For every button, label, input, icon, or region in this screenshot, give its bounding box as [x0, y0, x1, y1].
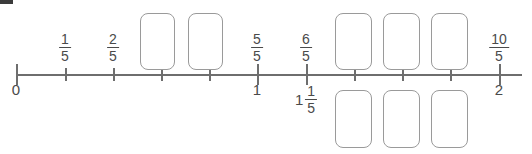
- label-six-fifths: 65: [300, 32, 312, 63]
- fraction-denominator: 5: [251, 48, 263, 63]
- label-one: 1: [253, 82, 261, 97]
- fraction-numerator: 1: [59, 32, 71, 47]
- fraction-numerator: 6: [300, 32, 312, 47]
- mixed-numerator: 1: [305, 84, 317, 99]
- mixed-denominator: 5: [305, 100, 317, 115]
- mixed-whole-part: 1: [295, 92, 303, 107]
- fraction-numerator: 2: [107, 32, 119, 47]
- crop-artifact: [0, 0, 13, 4]
- answer-box-1-3-5[interactable]: [383, 90, 420, 148]
- answer-box-3-5[interactable]: [140, 13, 175, 70]
- tick-mark: [65, 68, 67, 81]
- label-ten-fifths: 105: [489, 32, 509, 63]
- tick-mark: [113, 68, 115, 81]
- fraction-denominator: 5: [59, 48, 71, 63]
- label-two: 2: [495, 82, 503, 97]
- answer-box-1-2-5[interactable]: [335, 90, 372, 148]
- label-one-and-one-fifth: 115: [295, 84, 317, 115]
- answer-box-4-5[interactable]: [188, 13, 223, 70]
- fraction-denominator: 5: [489, 48, 509, 63]
- answer-box-9-5[interactable]: [431, 13, 468, 70]
- answer-box-1-4-5[interactable]: [431, 90, 468, 148]
- fraction-denominator: 5: [300, 48, 312, 63]
- answer-box-8-5[interactable]: [383, 13, 420, 70]
- fraction-numberline-worksheet: 15255565105 012 115: [0, 0, 532, 154]
- tick-mark: [306, 64, 308, 85]
- fraction-numerator: 10: [489, 32, 509, 47]
- answer-box-7-5[interactable]: [335, 13, 372, 70]
- number-line-axis: [16, 74, 522, 76]
- label-one-fifth: 15: [59, 32, 71, 63]
- fraction-denominator: 5: [107, 48, 119, 63]
- label-two-fifths: 25: [107, 32, 119, 63]
- label-zero: 0: [12, 82, 20, 97]
- fraction-numerator: 5: [251, 32, 263, 47]
- label-five-fifths: 55: [251, 32, 263, 63]
